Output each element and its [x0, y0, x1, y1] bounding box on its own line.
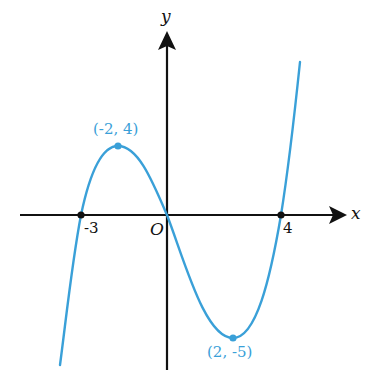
tick-label-4: 4 [283, 221, 293, 236]
x-intercept-4 [277, 211, 284, 218]
x-intercept-neg3 [77, 211, 84, 218]
cubic-graph [0, 0, 375, 384]
x-axis-label: x [351, 205, 361, 222]
y-axis-label: y [161, 8, 171, 25]
cubic-curve [60, 62, 300, 365]
local-minimum-point [229, 334, 236, 341]
origin-label: O [150, 221, 164, 238]
local-maximum-label: (-2, 4) [93, 122, 138, 137]
local-minimum-label: (2, -5) [207, 345, 252, 360]
local-maximum-point [114, 142, 121, 149]
tick-label-neg3: -3 [84, 221, 99, 236]
